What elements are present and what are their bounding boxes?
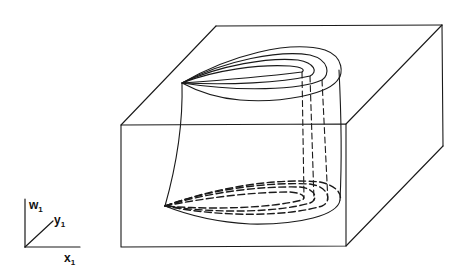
box-edge-top-right bbox=[346, 25, 442, 124]
axis-label-w1-name: w bbox=[29, 198, 38, 212]
surface bbox=[165, 47, 341, 224]
axis-label-y1: y1 bbox=[54, 214, 65, 229]
box-edge-bottom-right bbox=[346, 146, 443, 246]
diagram-canvas bbox=[0, 0, 472, 271]
box-edge-top-left bbox=[121, 26, 216, 125]
axis-label-x1-sub: 1 bbox=[71, 258, 75, 267]
surface-right-edge bbox=[339, 70, 341, 200]
hidden-line-1 bbox=[302, 72, 304, 198]
axis-label-w1-sub: 1 bbox=[38, 205, 42, 214]
box-edge-top-back bbox=[216, 25, 442, 26]
axis-y1 bbox=[25, 221, 53, 247]
top-loop-3 bbox=[182, 59, 314, 83]
axis-label-y1-sub: 1 bbox=[61, 220, 65, 229]
box bbox=[121, 25, 443, 247]
axis-label-x1-name: x bbox=[64, 251, 71, 265]
axis-label-y1-name: y bbox=[54, 213, 61, 227]
bottom-loop-outer-front bbox=[165, 200, 340, 224]
axis-label-w1: w1 bbox=[29, 199, 43, 214]
axis-label-x1: x1 bbox=[64, 252, 75, 267]
surface-left-edge bbox=[165, 83, 182, 206]
box-edge-right-back bbox=[442, 25, 443, 146]
